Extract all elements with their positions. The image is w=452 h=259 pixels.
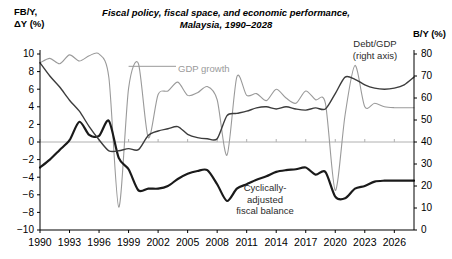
- annotation-debt-gdp-line2: (right axis): [353, 50, 397, 61]
- annotation-fb-line2: adjusted: [247, 194, 283, 205]
- right-tick-label: 80: [421, 48, 433, 59]
- x-tick-label: 2023: [353, 236, 377, 248]
- right-axis-title: B/Y (%): [413, 28, 446, 40]
- left-tick-label: 6: [28, 84, 34, 95]
- chart-figure: FB/Y,ΔY (%) Fiscal policy, fiscal space,…: [0, 0, 452, 259]
- chart-title: Fiscal policy, fiscal space, and economi…: [76, 7, 376, 31]
- left-tick-label: −6: [23, 189, 35, 200]
- x-tick-label: 2011: [235, 236, 258, 248]
- x-tick-label: 1999: [117, 236, 141, 248]
- right-tick-label: 60: [421, 92, 433, 103]
- left-axis-title-line2: ΔY (%): [14, 18, 44, 29]
- left-axis-title-line1: FB/Y,: [14, 6, 37, 17]
- left-tick-label: 4: [28, 101, 34, 112]
- x-tick-label: 2008: [205, 236, 229, 248]
- annotation-fiscal-balance: Cyclically-adjustedfiscal balance: [222, 182, 308, 217]
- x-tick-label: 2002: [146, 236, 170, 248]
- left-tick-label: 0: [28, 136, 34, 147]
- left-tick-label: 2: [28, 119, 34, 130]
- left-tick-label: 8: [28, 66, 34, 77]
- left-tick-label: −2: [23, 154, 35, 165]
- right-tick-label: 10: [421, 202, 433, 213]
- annotation-gdp-growth: GDP growth: [178, 63, 230, 75]
- x-tick-label: 2020: [324, 236, 348, 248]
- left-tick-label: −10: [17, 224, 34, 235]
- left-tick-label: 10: [23, 48, 35, 59]
- x-tick-label: 1993: [58, 236, 82, 248]
- x-tick-label: 1996: [87, 236, 111, 248]
- annotation-debt-gdp: Debt/GDP(right axis): [338, 38, 412, 61]
- x-tick-label: 2005: [176, 236, 200, 248]
- x-tick-label: 1990: [28, 236, 52, 248]
- annotation-fb-line1: Cyclically-: [244, 182, 287, 193]
- right-tick-label: 30: [421, 158, 433, 169]
- left-axis-title: FB/Y,ΔY (%): [14, 6, 44, 30]
- left-tick-label: −8: [23, 207, 35, 218]
- right-tick-label: 20: [421, 180, 433, 191]
- annotation-fb-line3: fiscal balance: [236, 205, 294, 216]
- right-tick-label: 50: [421, 114, 433, 125]
- left-tick-label: −4: [23, 172, 35, 183]
- chart-title-line2: Malaysia, 1990–2028: [180, 19, 272, 30]
- x-tick-label: 2026: [383, 236, 407, 248]
- x-tick-label: 2014: [265, 236, 289, 248]
- x-tick-label: 2017: [294, 236, 318, 248]
- left-axis-ticks: 1086420−2−4−6−8−10: [17, 48, 40, 235]
- chart-title-line1: Fiscal policy, fiscal space, and economi…: [102, 7, 350, 18]
- right-tick-label: 0: [421, 224, 427, 235]
- annotation-debt-gdp-line1: Debt/GDP: [353, 38, 396, 49]
- right-tick-label: 40: [421, 136, 433, 147]
- right-tick-label: 70: [421, 70, 433, 81]
- right-axis-ticks: 80706050403020100: [414, 48, 433, 235]
